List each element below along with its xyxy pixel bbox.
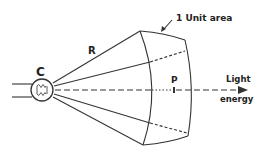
area-top-arc xyxy=(140,31,185,40)
energy-label-line1: Light xyxy=(226,74,251,84)
lamp-filament-icon xyxy=(37,85,47,96)
point-p-marker xyxy=(173,87,175,93)
inverse-square-law-diagram: C R 1 Unit area P Light energy xyxy=(0,0,258,155)
lamp-bulb-icon xyxy=(31,79,53,101)
area-bottom-arc xyxy=(143,136,188,145)
source-label: C xyxy=(36,65,45,79)
point-label: P xyxy=(171,75,178,85)
hidden-edge-top xyxy=(150,51,185,62)
ray-bottom xyxy=(53,97,143,145)
area-label: 1 Unit area xyxy=(176,13,232,23)
annotation-leader xyxy=(164,20,172,29)
hidden-edge-bottom xyxy=(150,123,187,133)
energy-label-line2: energy xyxy=(220,94,254,104)
area-back-arc xyxy=(185,40,191,136)
energy-arrowhead-icon xyxy=(238,86,248,94)
distance-label: R xyxy=(88,45,96,56)
cone-front-arc xyxy=(140,31,152,145)
ray-lower xyxy=(54,94,150,123)
